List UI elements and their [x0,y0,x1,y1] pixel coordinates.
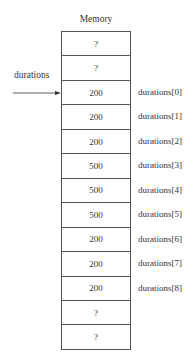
cell-value: 200 [89,88,103,98]
cell-value: 200 [89,259,103,269]
memory-cell: 200 [62,251,130,275]
memory-cell: ? [62,324,130,348]
pointer-label: durations [14,70,49,80]
cell-value: 500 [89,210,103,220]
memory-cell: 500 [62,202,130,226]
memory-cell: 200 [62,276,130,300]
index-label: durations[4] [138,185,182,195]
memory-cell: 500 [62,153,130,177]
memory-cell: ? [62,32,130,55]
index-label: durations[0] [138,87,182,97]
memory-cell: ? [62,300,130,324]
index-label: durations[5] [138,209,182,219]
index-label: durations[7] [138,258,182,268]
index-label: durations[8] [138,283,182,293]
memory-cell: 200 [62,227,130,251]
cell-value: 200 [89,283,103,293]
cell-value: 500 [89,161,103,171]
index-label: durations[2] [138,136,182,146]
cell-value: ? [94,308,98,318]
cell-value: 200 [89,137,103,147]
memory-cell: ? [62,55,130,79]
memory-cell: 200 [62,104,130,128]
pointer-arrow-icon [13,91,61,95]
cell-value: ? [94,332,98,342]
index-label: durations[3] [138,160,182,170]
cell-value: ? [94,63,98,73]
memory-block: ? ? 200 200 200 500 500 500 200 200 200 … [61,31,131,350]
index-label: durations[6] [138,234,182,244]
cell-value: 200 [89,234,103,244]
memory-cell: 200 [62,129,130,153]
cell-value: ? [94,39,98,49]
index-label: durations[1] [138,111,182,121]
cell-value: 200 [89,112,103,122]
cell-value: 500 [89,185,103,195]
memory-cell: 200 [62,80,130,104]
memory-title: Memory [61,14,131,24]
memory-cell: 500 [62,178,130,202]
